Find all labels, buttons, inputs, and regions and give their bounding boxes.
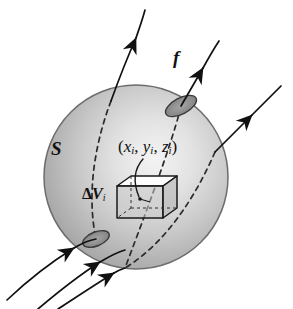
flux-line-2-outflow-tail (203, 41, 219, 68)
volume-element-cube (117, 176, 177, 218)
volume-delta-symbol: Δ (82, 185, 92, 202)
flux-line-1-outflow-tail (136, 10, 145, 38)
flux-line-1-inflow (7, 248, 74, 300)
figure-root: S f (xi, yi, zi) ΔVi (0, 0, 293, 309)
coords-close-paren: ) (172, 137, 178, 156)
coords-comma-2: , (153, 137, 162, 156)
coords-z: z (162, 137, 169, 156)
label-surface-S: S (51, 139, 62, 158)
flux-line-3-outflow-tail (252, 86, 281, 115)
flux-line-3-outflow (215, 115, 252, 152)
coords-comma-1: , (134, 137, 143, 156)
label-flux-field-f: f (173, 48, 179, 67)
label-coordinates: (xi, yi, zi) (118, 138, 177, 156)
volume-v-symbol: V (92, 185, 103, 202)
flux-line-3-inflow-tail (114, 268, 125, 273)
volume-subscript: i (103, 192, 106, 203)
flux-line-3-inflow (58, 273, 114, 309)
label-volume-element: ΔVi (82, 186, 105, 203)
